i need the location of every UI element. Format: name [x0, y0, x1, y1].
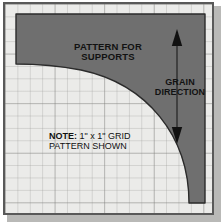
pattern-figure: PATTERN FOR SUPPORTS GRAIN DIRECTION NOT…: [0, 0, 223, 224]
pattern-overlay: [5, 4, 212, 213]
grid-plate: PATTERN FOR SUPPORTS GRAIN DIRECTION NOT…: [3, 2, 214, 215]
